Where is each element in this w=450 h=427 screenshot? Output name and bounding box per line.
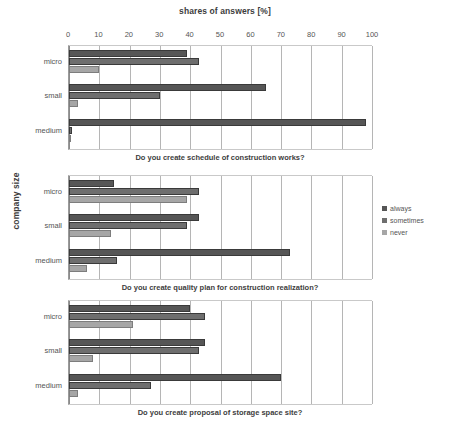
legend-swatch-icon xyxy=(382,230,387,235)
x-tick-label: 100 xyxy=(359,30,385,39)
x-tick-label: 30 xyxy=(146,30,172,39)
bar-row xyxy=(69,230,372,237)
bar-sometimes xyxy=(69,382,151,389)
bar-never xyxy=(69,100,78,107)
bar-never xyxy=(69,230,111,237)
bar-always xyxy=(69,119,366,126)
bar-row xyxy=(69,257,372,264)
bar-row xyxy=(69,214,372,221)
bar-always xyxy=(69,50,187,57)
bar-sometimes xyxy=(69,313,205,320)
bar-row xyxy=(69,382,372,389)
bar-always xyxy=(69,374,281,381)
legend-label: always xyxy=(390,205,411,212)
bar-row xyxy=(69,180,372,187)
bar-sometimes xyxy=(69,347,199,354)
bar-row xyxy=(69,135,372,142)
bar-group: small xyxy=(69,210,372,244)
legend-label: never xyxy=(390,229,408,236)
bar-row xyxy=(69,84,372,91)
bar-row xyxy=(69,374,372,381)
bar-row xyxy=(69,305,372,312)
bar-never xyxy=(69,355,93,362)
category-label: medium xyxy=(18,381,62,390)
legend-swatch-icon xyxy=(382,218,387,223)
bar-never xyxy=(69,390,78,397)
bar-sometimes xyxy=(69,188,199,195)
bar-sometimes xyxy=(69,127,72,134)
bar-row xyxy=(69,222,372,229)
bar-always xyxy=(69,84,266,91)
bar-row xyxy=(69,390,372,397)
bar-sometimes xyxy=(69,92,160,99)
category-label: micro xyxy=(18,57,62,66)
category-label: medium xyxy=(18,126,62,135)
x-tick-label: 60 xyxy=(237,30,263,39)
panel-caption: Do you create quality plan for construct… xyxy=(68,283,372,292)
bar-row xyxy=(69,58,372,65)
bar-never xyxy=(69,321,133,328)
bar-group: medium xyxy=(69,115,372,149)
chart-panel: microsmallmedium Do you create proposal … xyxy=(68,300,372,405)
panel-caption: Do you create proposal of storage space … xyxy=(68,408,372,417)
bar-always xyxy=(69,339,205,346)
chart-figure: shares of answers [%] company size 01020… xyxy=(0,0,450,427)
bar-row xyxy=(69,355,372,362)
bar-row xyxy=(69,100,372,107)
legend-item-sometimes: sometimes xyxy=(382,217,448,224)
x-axis-tick-labels: 0102030405060708090100 xyxy=(68,30,372,42)
bar-sometimes xyxy=(69,58,199,65)
legend-label: sometimes xyxy=(390,217,424,224)
x-tick-label: 0 xyxy=(55,30,81,39)
x-tick-label: 50 xyxy=(207,30,233,39)
bar-always xyxy=(69,180,114,187)
panel-caption: Do you create schedule of construction w… xyxy=(68,153,372,162)
bar-group: micro xyxy=(69,176,372,210)
legend-swatch-icon xyxy=(382,206,387,211)
x-tick-label: 90 xyxy=(329,30,355,39)
category-label: medium xyxy=(18,256,62,265)
bar-row xyxy=(69,265,372,272)
plot-area: microsmallmedium xyxy=(68,300,372,405)
bar-never xyxy=(69,265,87,272)
bar-row xyxy=(69,188,372,195)
bar-row xyxy=(69,196,372,203)
bar-never xyxy=(69,135,71,142)
bar-always xyxy=(69,305,190,312)
chart-panel: microsmallmedium Do you create quality p… xyxy=(68,175,372,280)
chart-legend: alwayssometimesnever xyxy=(382,205,448,241)
chart-title: shares of answers [%] xyxy=(0,6,450,16)
plot-area: microsmallmedium xyxy=(68,45,372,150)
bar-group: medium xyxy=(69,245,372,279)
bar-row xyxy=(69,347,372,354)
gridline xyxy=(372,46,373,149)
plot-area: microsmallmedium xyxy=(68,175,372,280)
bar-always xyxy=(69,249,290,256)
bar-group: micro xyxy=(69,46,372,80)
x-tick-label: 70 xyxy=(268,30,294,39)
bar-group: small xyxy=(69,80,372,114)
category-label: micro xyxy=(18,187,62,196)
legend-item-never: never xyxy=(382,229,448,236)
bar-always xyxy=(69,214,199,221)
bar-row xyxy=(69,249,372,256)
x-tick-label: 10 xyxy=(85,30,111,39)
bar-row xyxy=(69,313,372,320)
category-label: micro xyxy=(18,312,62,321)
chart-panel: microsmallmedium Do you create schedule … xyxy=(68,45,372,150)
bar-row xyxy=(69,92,372,99)
bar-group: micro xyxy=(69,301,372,335)
bar-row xyxy=(69,66,372,73)
x-tick-label: 40 xyxy=(177,30,203,39)
x-tick-label: 80 xyxy=(298,30,324,39)
x-tick-label: 20 xyxy=(116,30,142,39)
bar-never xyxy=(69,196,187,203)
gridline xyxy=(372,176,373,279)
category-label: small xyxy=(18,91,62,100)
bar-row xyxy=(69,50,372,57)
bar-row xyxy=(69,321,372,328)
bar-sometimes xyxy=(69,257,117,264)
bar-never xyxy=(69,66,99,73)
bar-row xyxy=(69,119,372,126)
legend-item-always: always xyxy=(382,205,448,212)
